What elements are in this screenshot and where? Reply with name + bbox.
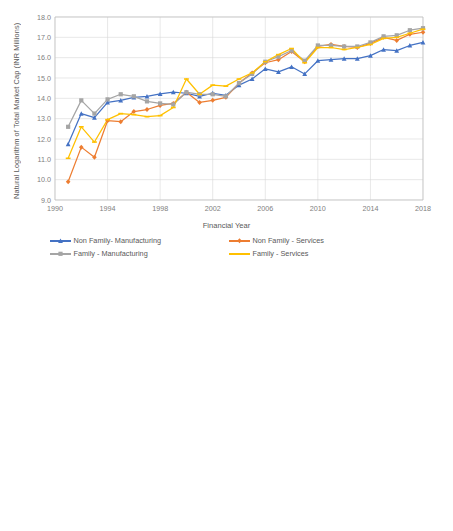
dash-marker-icon [229,249,250,258]
svg-text:15.0: 15.0 [37,74,51,83]
chart1-legend: Non Family- ManufacturingNon Family - Se… [0,236,453,262]
triangle-marker-icon [50,236,71,245]
svg-text:2002: 2002 [205,204,221,213]
svg-text:12.0: 12.0 [37,135,51,144]
svg-text:13.0: 13.0 [37,114,51,123]
chart1-x-axis-label: Financial Year [0,221,453,230]
svg-text:1990: 1990 [47,204,63,213]
legend-label: Family - Manufacturing [74,249,148,258]
svg-text:2006: 2006 [257,204,273,213]
svg-text:11.0: 11.0 [38,155,51,164]
svg-text:17.0: 17.0 [37,33,51,42]
svg-text:18.0: 18.0 [37,13,51,22]
legend-label: Non Family- Manufacturing [74,236,162,245]
svg-text:2018: 2018 [415,204,431,213]
legend-label: Family - Services [253,249,309,258]
legend-item[interactable]: Family - Manufacturing [50,249,225,258]
legend-item[interactable]: Family - Services [229,249,404,258]
svg-text:2014: 2014 [362,204,378,213]
diamond-marker-icon [229,236,250,245]
svg-text:1998: 1998 [152,204,168,213]
svg-text:14.0: 14.0 [37,94,51,103]
svg-text:10.0: 10.0 [37,175,51,184]
legend-label: Non Family - Services [253,236,324,245]
svg-text:16.0: 16.0 [37,53,51,62]
square-marker-icon [50,249,71,258]
legend-item[interactable]: Non Family- Manufacturing [50,236,225,245]
chart1-plot-area: 9.010.011.012.013.014.015.016.017.018.01… [0,0,453,215]
chart-market-cap-family-vs-nonfamily: Natural Logarithm of Total Market Cap (I… [0,0,453,270]
chart-market-cap-fbgf-vs-sff: Natural Logarithm of Total Market Capita… [0,270,453,531]
svg-text:2010: 2010 [310,204,326,213]
legend-item[interactable]: Non Family - Services [229,236,404,245]
svg-text:1994: 1994 [100,204,116,213]
chart1-y-axis-label: Natural Logarithm of Total Market Cap (I… [12,18,34,203]
